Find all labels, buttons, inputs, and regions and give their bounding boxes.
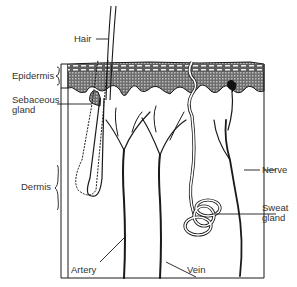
label-nerve: Nerve: [262, 165, 287, 175]
artery: [106, 108, 150, 278]
label-artery: Artery: [71, 265, 96, 275]
label-epidermis: Epidermis: [12, 71, 54, 81]
label-dermis: Dermis: [21, 182, 51, 192]
skin-diagram: [0, 0, 297, 287]
layer-brackets: [61, 64, 68, 278]
label-sebaceous-gland-line2: gland: [12, 105, 35, 115]
label-vein: Vein: [187, 265, 206, 275]
nerve-ending: [228, 80, 237, 92]
label-hair: Hair: [74, 34, 91, 44]
label-sweat-gland-line2: gland: [262, 213, 285, 223]
vein: [142, 106, 186, 278]
nerve: [214, 92, 242, 276]
